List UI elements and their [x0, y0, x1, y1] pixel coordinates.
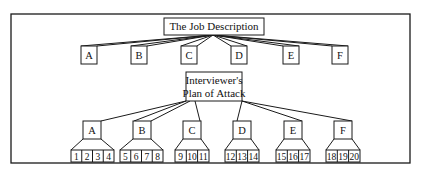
svg-text:C: C: [188, 125, 195, 136]
svg-text:2: 2: [85, 152, 90, 162]
svg-text:F: F: [337, 50, 343, 61]
plan-group-a: A 1 2 3 4: [71, 121, 114, 162]
plan-group-d: D 12 13 14: [225, 121, 259, 162]
plan-title-line-2: Plan of Attack: [183, 87, 246, 99]
svg-text:18: 18: [327, 152, 337, 162]
plan-group-f: F 18 19 20: [326, 121, 360, 162]
plan-group-e: E 15 16 17: [276, 121, 310, 162]
svg-text:D: D: [235, 50, 243, 61]
svg-text:A: A: [85, 50, 93, 61]
svg-text:16: 16: [288, 152, 298, 162]
svg-text:4: 4: [106, 152, 111, 162]
svg-text:11: 11: [199, 152, 208, 162]
plan-of-attack-tree: Interviewer's Plan of Attack A 1 2 3 4 B: [71, 72, 360, 162]
job-category-box-d: D: [231, 46, 247, 64]
job-description-diagram: The Job Description A B C D E F: [0, 0, 428, 178]
job-category-box-a: A: [81, 46, 97, 64]
job-description-title: The Job Description: [169, 20, 259, 32]
svg-text:1: 1: [74, 152, 79, 162]
job-description-tree: The Job Description A B C D E F: [81, 18, 348, 64]
svg-text:15: 15: [277, 152, 287, 162]
job-category-box-b: B: [131, 46, 147, 64]
svg-text:E: E: [290, 125, 296, 136]
svg-text:19: 19: [338, 152, 348, 162]
svg-text:17: 17: [300, 152, 310, 162]
svg-text:8: 8: [155, 152, 160, 162]
svg-text:B: B: [138, 125, 145, 136]
svg-text:20: 20: [350, 152, 360, 162]
svg-text:C: C: [185, 50, 192, 61]
job-description-box: The Job Description: [164, 18, 264, 35]
svg-text:12: 12: [226, 152, 236, 162]
svg-text:3: 3: [96, 152, 101, 162]
plan-title-line-1: Interviewer's: [186, 74, 243, 86]
svg-text:7: 7: [145, 152, 150, 162]
svg-text:A: A: [88, 125, 96, 136]
job-category-box-f: F: [332, 46, 348, 64]
svg-text:14: 14: [249, 152, 259, 162]
svg-text:13: 13: [237, 152, 247, 162]
job-category-box-e: E: [283, 46, 299, 64]
svg-text:10: 10: [187, 152, 197, 162]
svg-text:E: E: [288, 50, 294, 61]
job-category-box-c: C: [181, 46, 197, 64]
svg-text:B: B: [135, 50, 142, 61]
svg-text:F: F: [340, 125, 346, 136]
plan-group-c: C 9 10 11: [175, 121, 209, 162]
svg-text:6: 6: [134, 152, 139, 162]
svg-text:9: 9: [178, 152, 183, 162]
svg-text:5: 5: [123, 152, 128, 162]
plan-group-b: B 5 6 7 8: [120, 121, 163, 162]
plan-of-attack-box: Interviewer's Plan of Attack: [183, 72, 246, 101]
svg-text:D: D: [238, 125, 246, 136]
